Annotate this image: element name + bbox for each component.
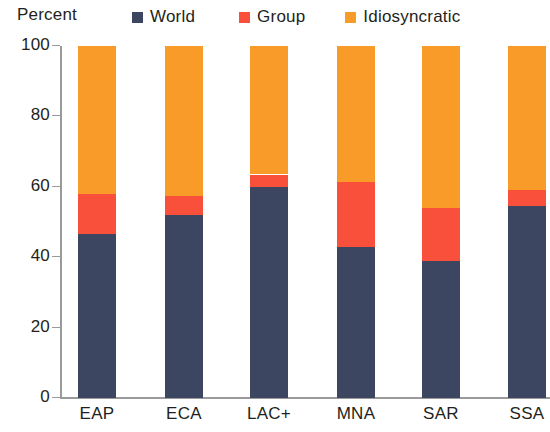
bar-segment-world bbox=[508, 206, 546, 398]
x-axis-tick-label: SSA bbox=[484, 404, 550, 424]
y-axis-tick-mark bbox=[52, 327, 60, 328]
bar-segment-world bbox=[250, 187, 288, 398]
y-axis-tick-label: 0 bbox=[4, 387, 50, 407]
bar-segment-group bbox=[165, 196, 203, 215]
bar-segment-idiosyncratic bbox=[78, 46, 116, 194]
bar-group bbox=[337, 46, 375, 398]
y-axis-tick-mark bbox=[52, 115, 60, 116]
bar-group bbox=[508, 46, 546, 398]
plot-area bbox=[60, 46, 550, 398]
legend-label-idiosyncratic: Idiosyncratic bbox=[363, 7, 460, 27]
bar-segment-world bbox=[165, 215, 203, 398]
bar-segment-group bbox=[508, 190, 546, 206]
legend-item-world: World bbox=[132, 7, 195, 27]
bar-segment-world bbox=[337, 247, 375, 398]
y-axis-tick-mark bbox=[52, 256, 60, 257]
bar-segment-world bbox=[422, 261, 460, 398]
bar-group bbox=[250, 46, 288, 398]
legend-swatch-group bbox=[239, 12, 250, 23]
legend-label-group: Group bbox=[257, 7, 305, 27]
y-axis-tick-label: 60 bbox=[4, 176, 50, 196]
bar-segment-group bbox=[337, 182, 375, 247]
bar-segment-group bbox=[422, 208, 460, 261]
bar-segment-group bbox=[250, 175, 288, 187]
y-axis-tick-label: 80 bbox=[4, 105, 50, 125]
x-axis-tick-label: LAC+ bbox=[226, 404, 312, 424]
bar-segment-group bbox=[78, 194, 116, 234]
y-axis-tick-mark bbox=[52, 45, 60, 46]
x-axis-tick-label: MNA bbox=[313, 404, 399, 424]
legend-label-world: World bbox=[150, 7, 195, 27]
chart-legend: World Group Idiosyncratic bbox=[132, 6, 460, 28]
bar-group bbox=[422, 46, 460, 398]
bar-segment-idiosyncratic bbox=[422, 46, 460, 208]
x-axis-tick-label: EAP bbox=[54, 404, 140, 424]
bar-segment-idiosyncratic bbox=[508, 46, 546, 190]
legend-swatch-idiosyncratic bbox=[345, 12, 356, 23]
bar-segment-idiosyncratic bbox=[337, 46, 375, 182]
y-axis-tick-label: 100 bbox=[4, 35, 50, 55]
y-axis-unit-label: Percent bbox=[17, 5, 77, 25]
legend-item-group: Group bbox=[239, 7, 305, 27]
bar-group bbox=[78, 46, 116, 398]
y-axis-tick-mark bbox=[52, 186, 60, 187]
legend-swatch-world bbox=[132, 12, 143, 23]
x-axis-tick-label: ECA bbox=[141, 404, 227, 424]
y-axis-tick-mark bbox=[52, 397, 60, 398]
y-axis-tick-label: 40 bbox=[4, 246, 50, 266]
legend-item-idiosyncratic: Idiosyncratic bbox=[345, 7, 460, 27]
x-axis-tick-label: SAR bbox=[398, 404, 484, 424]
bar-segment-idiosyncratic bbox=[165, 46, 203, 196]
bar-group bbox=[165, 46, 203, 398]
y-axis-tick-label: 20 bbox=[4, 317, 50, 337]
bar-segment-idiosyncratic bbox=[250, 46, 288, 174]
stacked-bar-chart: Percent World Group Idiosyncratic 020406… bbox=[0, 0, 550, 432]
bar-segment-world bbox=[78, 234, 116, 398]
